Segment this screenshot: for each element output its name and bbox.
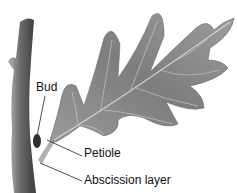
- label-abscission-layer: Abscission layer: [84, 174, 171, 186]
- label-petiole: Petiole: [84, 147, 121, 159]
- twig: [8, 18, 36, 193]
- leaf-diagram: [0, 0, 237, 193]
- abscission-leader-line: [40, 163, 82, 181]
- label-bud: Bud: [36, 81, 57, 93]
- petiole-leader-line: [47, 140, 82, 156]
- leaf-blade: [50, 14, 234, 143]
- bud-leader-line: [37, 96, 45, 136]
- bud: [33, 134, 41, 148]
